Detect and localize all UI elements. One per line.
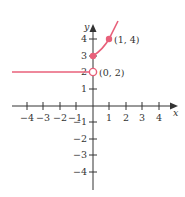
closed-point-1-4 (106, 36, 112, 42)
x-tick-label: 3 (139, 112, 145, 123)
y-tick-label: −2 (73, 133, 87, 144)
x-tick-label: −3 (36, 112, 50, 123)
x-tick-label: −2 (53, 112, 67, 123)
point-label-0-2: (0, 2) (99, 67, 125, 78)
y-tick-label: −4 (73, 166, 87, 177)
closed-point-0-3 (90, 53, 96, 59)
x-tick-label: −4 (20, 112, 34, 123)
y-axis-arrow-icon (90, 24, 97, 32)
y-tick-labels: 4 3 2 1 −1 −2 −3 −4 (73, 33, 87, 177)
point-label-1-4: (1, 4) (114, 34, 140, 45)
x-axis-label: x (173, 107, 179, 118)
open-point-0-2 (89, 68, 96, 75)
x-tick-label: 4 (156, 112, 162, 123)
graph: −4 −3 −2 −1 1 2 3 4 4 3 2 1 −1 −2 −3 −4 … (0, 0, 185, 197)
y-tick-label: −1 (73, 116, 87, 127)
y-tick-label: 3 (81, 50, 87, 61)
x-tick-labels: −4 −3 −2 −1 1 2 3 4 (20, 112, 162, 123)
y-tick-label: 4 (81, 33, 87, 44)
x-tick-label: 1 (106, 112, 112, 123)
y-axis-label: y (83, 21, 90, 32)
y-tick-label: −3 (73, 149, 87, 160)
x-tick-label: 2 (123, 112, 129, 123)
y-tick-label: 1 (81, 83, 87, 94)
